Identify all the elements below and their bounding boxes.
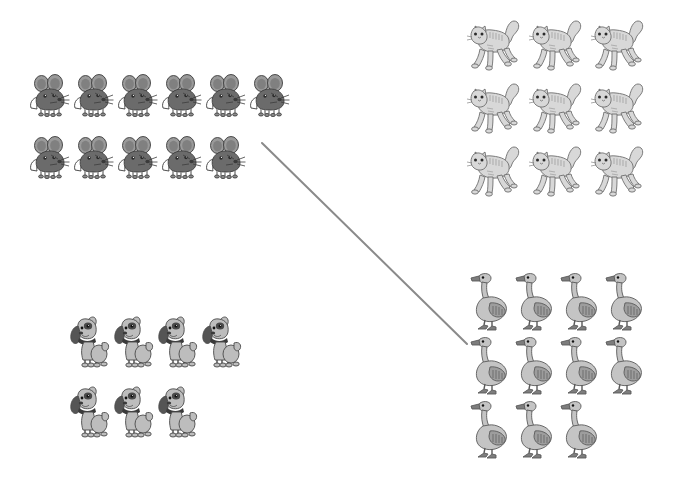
animal-row bbox=[66, 370, 242, 440]
goose-icon[interactable] bbox=[470, 334, 515, 396]
animal-row bbox=[28, 56, 292, 118]
dog-icon[interactable] bbox=[154, 384, 198, 440]
goose-icon[interactable] bbox=[515, 398, 560, 460]
goose-icon[interactable] bbox=[515, 270, 560, 332]
cat-icon[interactable] bbox=[528, 15, 590, 73]
mouse-icon[interactable] bbox=[72, 134, 116, 180]
mouse-icon[interactable] bbox=[160, 72, 204, 118]
cat-icon[interactable] bbox=[528, 78, 590, 136]
goose-icon[interactable] bbox=[515, 334, 560, 396]
cat-icon[interactable] bbox=[590, 141, 652, 199]
animal-row bbox=[466, 136, 652, 199]
mouse-icon[interactable] bbox=[116, 72, 160, 118]
animal-row bbox=[470, 268, 650, 332]
animal-group-mice[interactable] bbox=[28, 56, 292, 180]
cat-icon[interactable] bbox=[466, 141, 528, 199]
goose-icon[interactable] bbox=[560, 398, 605, 460]
animal-row bbox=[66, 300, 242, 370]
animal-group-dogs[interactable] bbox=[66, 300, 242, 440]
cat-icon[interactable] bbox=[528, 141, 590, 199]
mouse-icon[interactable] bbox=[204, 134, 248, 180]
cat-icon[interactable] bbox=[590, 15, 652, 73]
goose-icon[interactable] bbox=[470, 270, 515, 332]
mouse-icon[interactable] bbox=[28, 72, 72, 118]
dog-icon[interactable] bbox=[154, 314, 198, 370]
dog-icon[interactable] bbox=[110, 384, 154, 440]
mouse-icon[interactable] bbox=[28, 134, 72, 180]
animal-row bbox=[470, 396, 650, 460]
goose-icon[interactable] bbox=[560, 270, 605, 332]
dog-icon[interactable] bbox=[198, 314, 242, 370]
goose-icon[interactable] bbox=[470, 398, 515, 460]
animal-row bbox=[466, 73, 652, 136]
cat-icon[interactable] bbox=[590, 78, 652, 136]
dog-icon[interactable] bbox=[110, 314, 154, 370]
mouse-icon[interactable] bbox=[204, 72, 248, 118]
mouse-icon[interactable] bbox=[116, 134, 160, 180]
goose-icon[interactable] bbox=[605, 334, 650, 396]
animal-group-cats[interactable] bbox=[466, 10, 652, 199]
worksheet-canvas bbox=[0, 0, 678, 490]
dog-icon[interactable] bbox=[66, 384, 110, 440]
animal-row bbox=[470, 332, 650, 396]
dog-icon[interactable] bbox=[66, 314, 110, 370]
cat-icon[interactable] bbox=[466, 78, 528, 136]
cat-icon[interactable] bbox=[466, 15, 528, 73]
goose-icon[interactable] bbox=[560, 334, 605, 396]
mice-to-geese-connector[interactable] bbox=[262, 143, 467, 344]
mouse-icon[interactable] bbox=[160, 134, 204, 180]
animal-row bbox=[466, 10, 652, 73]
animal-group-geese[interactable] bbox=[470, 268, 650, 460]
animal-row bbox=[28, 118, 292, 180]
mouse-icon[interactable] bbox=[72, 72, 116, 118]
mouse-icon[interactable] bbox=[248, 72, 292, 118]
goose-icon[interactable] bbox=[605, 270, 650, 332]
